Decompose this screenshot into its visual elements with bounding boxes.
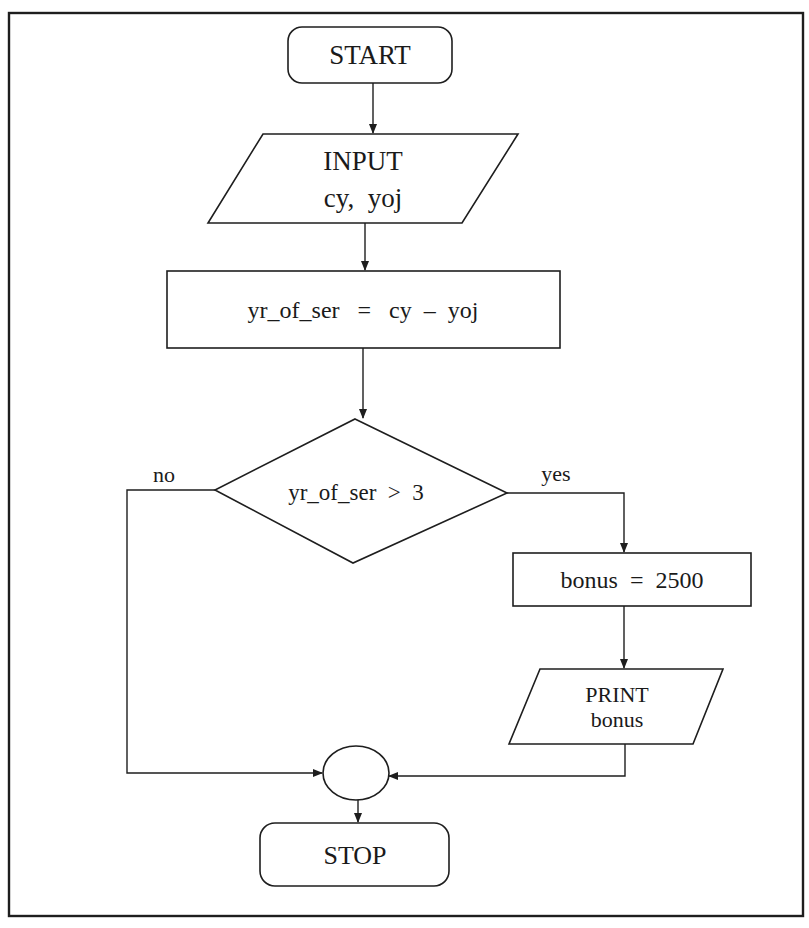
print-variable: bonus — [591, 707, 644, 732]
bonus-node: bonus = 2500 — [513, 553, 751, 606]
print-node: PRINT bonus — [509, 669, 723, 744]
edge-print-to-connector — [389, 744, 625, 776]
yes-branch-label: yes — [541, 461, 570, 486]
print-label: PRINT — [585, 682, 649, 707]
decision-condition: yr_of_ser > 3 — [288, 480, 424, 505]
decision-node: yr_of_ser > 3 — [215, 419, 507, 563]
stop-node: STOP — [260, 823, 449, 886]
input-node: INPUT cy, yoj — [208, 134, 518, 223]
flowchart-canvas: START INPUT cy, yoj yr_of_ser = cy – yoj… — [0, 0, 809, 928]
stop-label: STOP — [323, 841, 386, 870]
bonus-assignment-label: bonus = 2500 — [561, 567, 704, 593]
start-node: START — [288, 27, 452, 83]
no-branch-label: no — [153, 462, 175, 487]
input-variables: cy, yoj — [324, 183, 402, 213]
edge-no-to-connector — [127, 490, 322, 773]
edge-yes-to-bonus — [507, 493, 624, 552]
input-label: INPUT — [323, 146, 403, 176]
connector-circle — [323, 746, 389, 800]
compute-node: yr_of_ser = cy – yoj — [167, 271, 560, 348]
compute-label: yr_of_ser = cy – yoj — [248, 297, 479, 323]
start-label: START — [329, 40, 411, 70]
